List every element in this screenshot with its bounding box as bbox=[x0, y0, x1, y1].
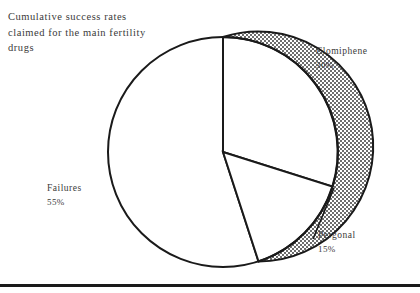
pie-label-failures-percent: 55% bbox=[47, 195, 82, 209]
pie-label-pergonal-percent: 15% bbox=[318, 242, 356, 256]
pie-label-clomiphene-percent: 30% bbox=[316, 58, 367, 72]
pie-label-failures-name: Failures bbox=[47, 183, 82, 193]
pie-label-clomiphene: Clomiphene 30% bbox=[316, 44, 367, 72]
pie-chart-figure: Cumulative success rates claimed for the… bbox=[0, 0, 420, 293]
pie-label-pergonal-name: Pergonal bbox=[318, 230, 356, 240]
pie-label-pergonal: Pergonal 15% bbox=[318, 228, 356, 256]
pie-label-failures: Failures 55% bbox=[47, 181, 82, 209]
pie-label-clomiphene-name: Clomiphene bbox=[316, 46, 367, 56]
bottom-rule bbox=[0, 284, 420, 287]
